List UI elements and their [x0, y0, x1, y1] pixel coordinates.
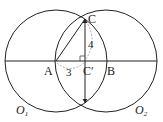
right-angle-marker [80, 56, 85, 61]
label-o2-sub: 2 [144, 110, 148, 118]
label-o1-sub: 1 [25, 110, 29, 118]
label-c-prime: C′ [83, 64, 94, 78]
segment-ac [56, 19, 85, 61]
label-b: B [107, 64, 115, 78]
label-o2-main: O [135, 103, 144, 117]
label-3: 3 [66, 66, 72, 78]
label-o1: O1 [16, 103, 28, 118]
geometry-diagram: C A C′ B 3 4 O1 O2 [0, 0, 163, 122]
label-o2: O2 [135, 103, 148, 118]
label-a: A [44, 64, 53, 78]
arrow-bottom-icon [83, 99, 88, 103]
label-4: 4 [88, 38, 94, 50]
label-c: C [88, 12, 96, 26]
label-o1-main: O [16, 103, 25, 117]
